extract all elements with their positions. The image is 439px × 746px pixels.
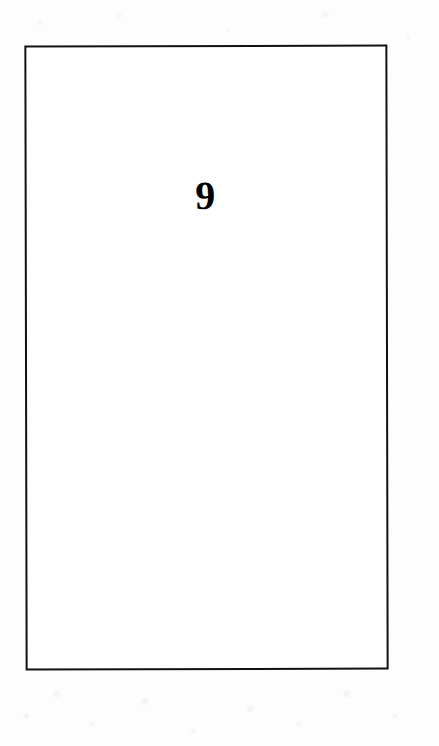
page-body-text (26, 47, 385, 48)
page-number: 9 (26, 176, 385, 217)
scanned-page: 9 (0, 0, 439, 746)
page-border-frame: 9 (24, 45, 388, 671)
